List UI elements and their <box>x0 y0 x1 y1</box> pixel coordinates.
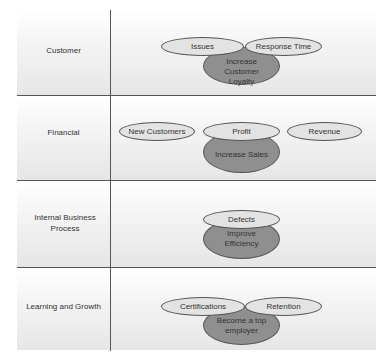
measure-label: Defects <box>228 215 255 225</box>
measure-certifications: Certifications <box>161 297 245 316</box>
measure-profit: Profit <box>203 122 280 141</box>
measure-label: Profit <box>232 127 251 137</box>
measure-response-time: Response Time <box>245 37 322 56</box>
measure-label: Issues <box>191 42 214 52</box>
row-label-internal-business-process: Internal Business Process <box>20 212 110 234</box>
measure-issues: Issues <box>161 37 244 56</box>
measure-label: Retention <box>266 302 300 312</box>
measure-label: Certifications <box>180 302 226 312</box>
row-divider <box>17 95 376 96</box>
row-label-customer: Customer <box>17 45 110 56</box>
goal-label: Increase Customer Loyalty <box>212 57 272 87</box>
measure-revenue: Revenue <box>287 122 362 141</box>
column-divider <box>110 10 111 351</box>
measure-retention: Retention <box>245 297 322 316</box>
measure-defects: Defects <box>203 210 280 229</box>
measure-label: Revenue <box>308 127 340 137</box>
row-label-financial: Financial <box>17 127 110 138</box>
row-label-learning-and-growth: Learning and Growth <box>17 301 110 312</box>
measure-label: New Customers <box>129 127 186 137</box>
measure-label: Response Time <box>256 42 312 52</box>
goal-label: Increase Sales <box>215 150 268 160</box>
measure-new-customers: New Customers <box>119 122 195 141</box>
row-divider <box>17 180 376 181</box>
goal-label: Become a top employer <box>214 316 270 336</box>
goal-label: Improve Efficiency <box>217 229 267 249</box>
row-divider <box>17 267 376 268</box>
